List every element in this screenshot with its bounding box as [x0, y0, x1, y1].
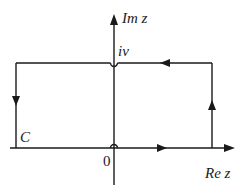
re-axis-label: Re z: [204, 165, 231, 181]
contour-label: C: [20, 129, 31, 145]
right-direction-arrow-icon: [208, 100, 216, 110]
diagram-svg: Im z iν C 0 Re z: [0, 0, 244, 193]
re-axis-arrow-icon: [224, 144, 235, 152]
left-direction-arrow-icon: [12, 96, 20, 106]
im-axis-label: Im z: [121, 10, 148, 26]
bottom-direction-arrow-icon: [157, 144, 167, 152]
im-axis-arrow-icon: [110, 14, 118, 25]
origin-label: 0: [103, 153, 111, 169]
top-direction-arrow-icon: [160, 59, 170, 67]
contour-diagram: Im z iν C 0 Re z: [0, 0, 244, 193]
inu-label: iν: [118, 43, 129, 59]
